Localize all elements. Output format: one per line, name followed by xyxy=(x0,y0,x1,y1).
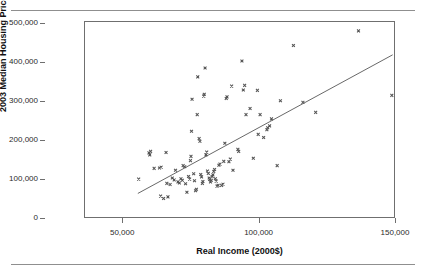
data-point xyxy=(229,158,232,161)
x-axis: Real Income (2000$) 50,000100,000150,000 xyxy=(0,218,426,271)
scatter-data-layer xyxy=(85,22,394,217)
data-point xyxy=(174,169,177,172)
data-point xyxy=(357,29,360,32)
data-point xyxy=(262,136,265,139)
data-point xyxy=(222,183,225,186)
data-point xyxy=(292,44,295,47)
data-point xyxy=(268,124,271,127)
x-tick-mark xyxy=(395,218,396,223)
x-tick-label: 150,000 xyxy=(381,229,410,237)
plot-area xyxy=(84,21,395,218)
y-tick-mark xyxy=(40,179,45,180)
data-point xyxy=(189,159,192,162)
data-point xyxy=(137,178,140,181)
x-tick-mark xyxy=(122,218,123,223)
data-point xyxy=(240,60,243,63)
y-tick-label: 500,000 xyxy=(9,19,38,27)
data-point xyxy=(276,164,279,167)
data-point xyxy=(230,85,233,88)
data-point xyxy=(198,140,201,143)
data-point xyxy=(204,67,207,70)
y-tick-mark xyxy=(40,140,45,141)
data-point xyxy=(243,84,246,87)
x-tick-label: 50,000 xyxy=(110,229,134,237)
y-tick-label: 400,000 xyxy=(9,58,38,66)
data-point xyxy=(184,182,187,185)
data-point xyxy=(242,89,245,92)
x-tick-mark xyxy=(259,218,260,223)
y-axis-title: 2003 Median Housing Price (2000$) xyxy=(0,0,8,132)
data-point xyxy=(252,157,255,160)
data-point xyxy=(390,94,393,97)
data-point xyxy=(219,163,222,166)
data-point xyxy=(173,178,176,181)
data-point xyxy=(181,179,184,182)
data-point xyxy=(198,137,201,140)
trend-line-segment xyxy=(138,55,393,194)
data-point xyxy=(167,195,170,198)
data-point xyxy=(196,113,199,116)
data-point xyxy=(223,142,226,145)
y-tick-label: 200,000 xyxy=(9,136,38,144)
figure-container: 2003 Median Housing Price (2000$) 0100,0… xyxy=(0,0,426,271)
data-point xyxy=(178,182,181,185)
data-point xyxy=(256,89,259,92)
scatter-plot-svg xyxy=(85,22,394,217)
data-point xyxy=(159,195,162,198)
data-point xyxy=(314,111,317,114)
data-point xyxy=(279,99,282,102)
y-tick-mark xyxy=(40,23,45,24)
x-axis-title: Real Income (2000$) xyxy=(84,246,395,256)
data-point xyxy=(165,182,168,185)
data-point xyxy=(245,113,248,116)
data-point xyxy=(222,160,225,163)
data-point xyxy=(270,117,273,120)
data-point xyxy=(190,155,193,158)
y-tick-label: 100,000 xyxy=(9,175,38,183)
data-point xyxy=(153,167,156,170)
y-axis: 2003 Median Housing Price (2000$) 0100,0… xyxy=(0,0,84,240)
data-point xyxy=(196,75,199,78)
y-tick-label: 300,000 xyxy=(9,97,38,105)
data-point xyxy=(204,153,207,156)
y-tick-mark xyxy=(40,62,45,63)
data-point xyxy=(249,107,252,110)
data-point xyxy=(149,150,152,153)
data-point xyxy=(162,197,165,200)
x-tick-label: 100,000 xyxy=(244,229,273,237)
data-point xyxy=(205,151,208,154)
data-point xyxy=(185,191,188,194)
data-point xyxy=(227,160,230,163)
data-point xyxy=(193,179,196,182)
data-point xyxy=(232,169,235,172)
data-point xyxy=(259,113,262,116)
data-point xyxy=(191,98,194,101)
trend-line xyxy=(138,55,393,194)
data-point xyxy=(169,183,172,186)
data-point xyxy=(192,172,195,175)
y-tick-mark xyxy=(40,101,45,102)
data-point xyxy=(190,130,193,133)
data-point xyxy=(165,151,168,154)
data-point-markers xyxy=(137,29,393,199)
data-point xyxy=(257,133,260,136)
